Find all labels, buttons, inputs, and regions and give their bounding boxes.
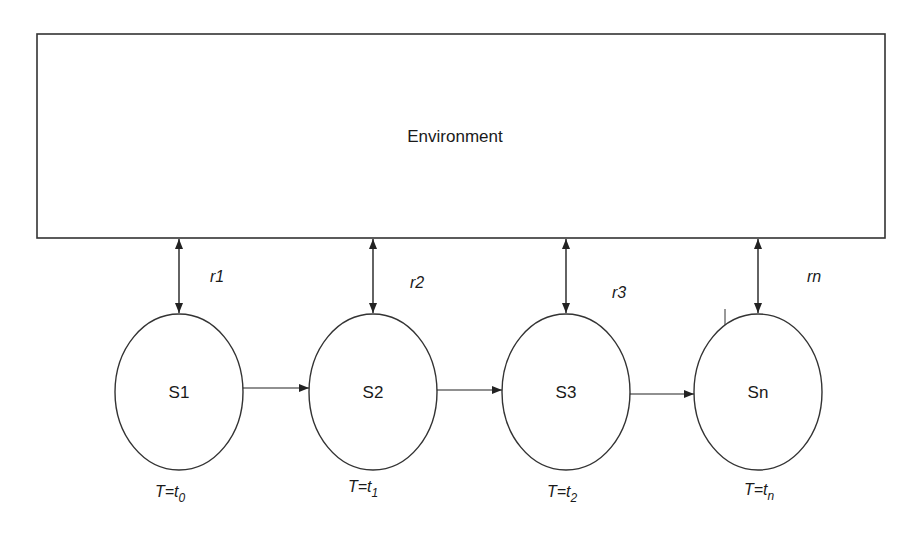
time-label: T=t2 — [547, 483, 578, 505]
reward-label: r2 — [410, 274, 424, 291]
state-node-sn: SnrnT=tn — [694, 239, 822, 503]
state-label: S3 — [556, 383, 577, 402]
time-label: T=t0 — [155, 483, 186, 505]
reward-label: r1 — [210, 268, 224, 285]
state-node-s3: S3r3T=t2 — [502, 239, 630, 505]
state-label: Sn — [748, 383, 769, 402]
time-label: T=t1 — [348, 478, 378, 500]
environment-label: Environment — [407, 127, 503, 146]
state-node-s2: S2r2T=t1 — [309, 239, 437, 500]
reward-label: r3 — [612, 284, 626, 301]
rl-state-diagram: Environment S1r1T=t0S2r2T=t1S3r3T=t2Snrn… — [0, 0, 921, 543]
state-label: S1 — [169, 383, 190, 402]
environment-box: Environment — [37, 34, 885, 238]
state-node-s1: S1r1T=t0 — [115, 239, 243, 505]
transitions — [243, 388, 694, 394]
time-label: T=tn — [744, 481, 775, 503]
reward-label: rn — [807, 268, 821, 285]
state-label: S2 — [363, 383, 384, 402]
states: S1r1T=t0S2r2T=t1S3r3T=t2SnrnT=tn — [115, 239, 822, 505]
